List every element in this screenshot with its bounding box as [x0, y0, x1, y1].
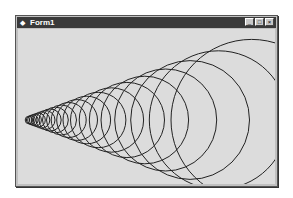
- client-area: [18, 29, 275, 184]
- circle: [115, 69, 217, 171]
- circle: [149, 51, 275, 184]
- minimize-button[interactable]: _: [245, 18, 254, 26]
- circle: [131, 61, 250, 180]
- title-bar[interactable]: ◆ Form1 _ □ ×: [17, 17, 276, 28]
- close-button[interactable]: ×: [265, 18, 274, 26]
- maximize-button[interactable]: □: [255, 18, 264, 26]
- form-window: ◆ Form1 _ □ ×: [15, 15, 278, 187]
- window-title: Form1: [30, 17, 54, 28]
- app-icon[interactable]: ◆: [20, 19, 27, 26]
- circle: [101, 76, 189, 164]
- circles-drawing: [18, 29, 275, 184]
